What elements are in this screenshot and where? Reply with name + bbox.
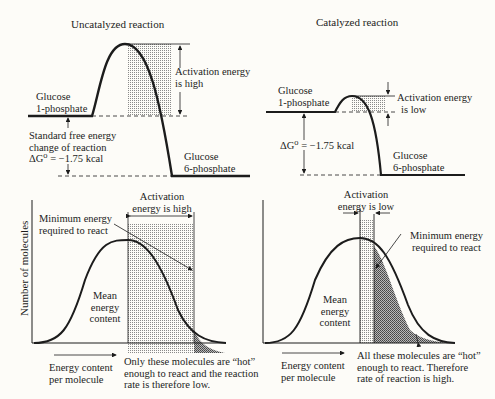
- x-axis-label: Energy content per molecule: [281, 360, 345, 383]
- hot-molecules-note: Only these molecules are “hot” enough to…: [124, 356, 258, 391]
- free-energy-label: ΔG⁰ = −1.75 kcal: [280, 140, 354, 152]
- catalyzed-distribution-plot: [263, 200, 455, 353]
- activation-energy-label: Activation energy is high: [175, 66, 250, 89]
- activation-energy-label: Activation energy is low: [397, 92, 472, 115]
- catalyzed-title: Catalyzed reaction: [316, 17, 398, 29]
- product-label: Glucose 6-phosphate: [184, 151, 235, 174]
- minimum-energy-label: Minimum energy required to react: [410, 230, 483, 253]
- y-axis-label: Number of molecules: [18, 221, 30, 316]
- activation-energy-label: Activation energy is low: [332, 189, 400, 212]
- mean-energy-label: Mean energy content: [315, 294, 355, 329]
- diagram-graphics: [0, 0, 495, 399]
- reactant-label: Glucose 1-phosphate: [36, 91, 87, 114]
- x-axis-label: Energy content per molecule: [49, 362, 113, 385]
- reactant-label: Glucose 1-phosphate: [278, 85, 329, 108]
- minimum-energy-label: Minimum energy required to react: [39, 213, 112, 236]
- activation-energy-label: Activation energy is high: [130, 191, 194, 214]
- product-label: Glucose 6-phosphate: [393, 150, 444, 173]
- mean-energy-label: Mean energy content: [85, 290, 125, 325]
- free-energy-label: Standard free energy change of reaction …: [29, 130, 116, 165]
- uncatalyzed-title: Uncatalyzed reaction: [71, 19, 164, 31]
- hot-molecules-note: All these molecules are “hot” enough to …: [357, 350, 481, 385]
